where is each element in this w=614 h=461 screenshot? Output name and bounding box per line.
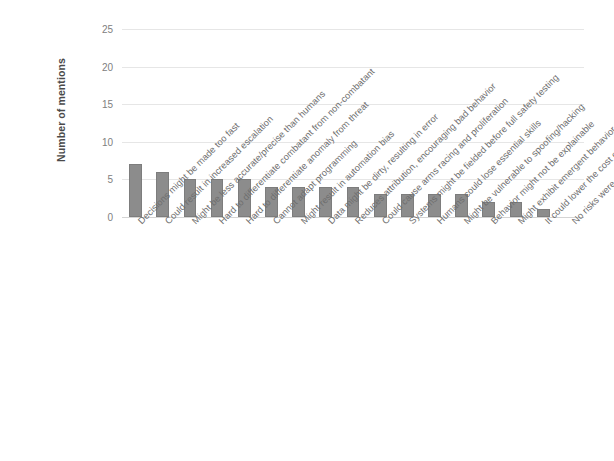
- bar[interactable]: [129, 164, 142, 217]
- x-axis-tick-label: Cannot adapt programming: [271, 219, 278, 226]
- x-axis-tick-label: Systems might be fielded before full saf…: [407, 219, 414, 226]
- x-axis-tick-label: Might exhibit emergent behavior: [516, 219, 523, 226]
- x-axis-tick-label: Decisions might be made too fast: [136, 219, 143, 226]
- y-axis-tick-label: 5: [107, 174, 113, 185]
- x-axis-tick-label: Behavior might not be explainable: [489, 219, 496, 226]
- y-axis-tick-label: 10: [102, 136, 113, 147]
- y-axis-tick-label: 0: [107, 212, 113, 223]
- x-axis-tick-label: Might result in automation bias: [299, 219, 306, 226]
- x-axis-tick-label: No risks were mentioned: [570, 219, 577, 226]
- x-axis-tick-label: Humans could lose essential skills: [435, 219, 442, 226]
- x-axis-tick-label: Hard to differentiate combatant from non…: [217, 219, 224, 226]
- x-axis-tick-label: Might be vulnerable to spoofing/hacking: [462, 219, 469, 226]
- y-axis-tick-label: 20: [102, 61, 113, 72]
- y-axis-title-text: Number of mentions: [55, 58, 67, 162]
- x-axis-tick-label: Could result in increased escalation: [163, 219, 170, 226]
- x-axis-tick-label: Hard to differentiate anomaly from threa…: [244, 219, 251, 226]
- y-axis-tick-label: 15: [102, 99, 113, 110]
- x-axis-tick-label: It could lower the cost of war: [543, 219, 550, 226]
- bar-slot: [122, 29, 149, 217]
- bar-chart: Number of mentions 0510152025 Decisions …: [0, 0, 614, 461]
- x-axis-tick-label: Reduces attribution, encouraging bad beh…: [353, 219, 360, 226]
- x-axis-tick-label: Might be less accurate/precise than huma…: [190, 219, 197, 226]
- y-axis-title: Number of mentions: [52, 30, 70, 190]
- x-axis-tick-label: Data might be dirty, resulting in error: [326, 219, 333, 226]
- y-axis-tick-label: 25: [102, 24, 113, 35]
- x-axis-tick-label: Could cause arms racing and proliferatio…: [380, 219, 387, 226]
